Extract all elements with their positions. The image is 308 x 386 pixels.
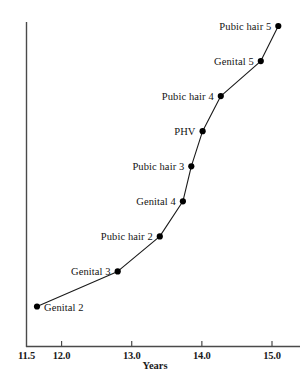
chart-figure: 11.512.013.014.015.0 Genital 2Genital 3P… (0, 0, 308, 386)
x-axis-tick-label: 11.5 (18, 350, 35, 361)
data-point-label: PHV (174, 126, 195, 137)
x-axis-title: Years (142, 360, 167, 371)
data-point-marker[interactable] (180, 198, 186, 204)
chart-axes (26, 22, 300, 347)
x-axis-tick-label: 15.0 (263, 350, 281, 361)
data-point-label: Pubic hair 3 (132, 161, 184, 172)
data-point-marker[interactable] (188, 163, 194, 169)
x-axis-tick-label: 14.0 (193, 350, 211, 361)
data-point-label: Genital 2 (44, 301, 84, 312)
x-axis-tick-label: 13.0 (123, 350, 141, 361)
data-point-marker[interactable] (115, 268, 121, 274)
data-point-marker[interactable] (275, 23, 281, 29)
data-point-label: Pubic hair 5 (219, 21, 271, 32)
data-point-marker[interactable] (200, 128, 206, 134)
data-point-label: Pubic hair 4 (162, 91, 214, 102)
data-point-label: Pubic hair 2 (101, 231, 153, 242)
data-point-marker[interactable] (218, 93, 224, 99)
data-point-marker[interactable] (258, 58, 264, 64)
data-point-marker[interactable] (34, 303, 40, 309)
chart-plot-area (0, 0, 308, 386)
data-point-marker[interactable] (157, 233, 163, 239)
data-point-label: Genital 3 (71, 266, 111, 277)
data-point-label: Genital 5 (214, 56, 254, 67)
data-point-label: Genital 4 (136, 196, 176, 207)
x-axis-tick-label: 12.0 (53, 350, 71, 361)
